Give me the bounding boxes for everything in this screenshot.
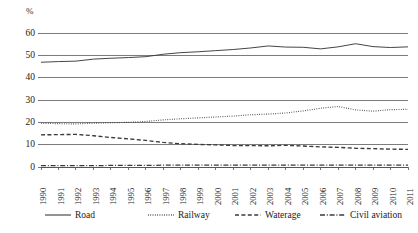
x-axis-tick-label: 1999 <box>195 188 205 205</box>
chart-figure: 0102030405060 19901991199219931994199519… <box>0 0 418 233</box>
y-axis-unit-label: % <box>26 6 34 16</box>
x-axis-tick-label: 1995 <box>126 188 136 205</box>
x-axis-tick-label: 1991 <box>56 188 66 205</box>
series-line-road <box>41 44 408 63</box>
gridlines-group <box>41 33 408 167</box>
x-axis-tick-label: 1990 <box>38 188 48 205</box>
x-axis-tick-label: 2004 <box>283 187 293 205</box>
legend-label-railway: Railway <box>178 210 210 220</box>
x-axis-tick-label: 2011 <box>405 188 415 205</box>
y-axis-tick-label: 60 <box>26 28 36 38</box>
x-axis-tick-label: 2005 <box>300 188 310 205</box>
x-axis-tick-label: 2002 <box>248 188 258 205</box>
x-axis-ticks-group: 1990199119921993199419951996199719981999… <box>38 167 415 205</box>
y-axis-tick-label: 40 <box>26 72 36 82</box>
chart-legend: RoadRailwayWaterageCivil aviation <box>45 210 402 220</box>
series-line-railway <box>41 106 408 123</box>
legend-label-waterage: Waterage <box>265 210 301 220</box>
x-axis-tick-label: 1994 <box>108 187 118 205</box>
y-axis-tick-label: 10 <box>26 139 36 149</box>
x-axis-tick-label: 1993 <box>91 188 101 205</box>
x-axis-tick-label: 1997 <box>161 187 171 205</box>
x-axis-tick-label: 1992 <box>73 188 83 205</box>
y-axis-tick-label: 50 <box>26 50 36 60</box>
legend-label-road: Road <box>75 210 95 220</box>
x-axis-tick-label: 2007 <box>335 187 345 205</box>
x-axis-tick-label: 2001 <box>230 188 240 205</box>
x-axis-tick-label: 2000 <box>213 188 223 205</box>
y-axis-tick-label: 30 <box>26 95 36 105</box>
x-axis-tick-label: 1998 <box>178 188 188 205</box>
y-axis-ticks-group: 0102030405060 <box>26 28 42 172</box>
line-chart: 0102030405060 19901991199219931994199519… <box>0 0 418 233</box>
series-line-waterage <box>41 134 408 149</box>
x-axis-tick-label: 2006 <box>318 187 328 205</box>
x-axis-tick-label: 2010 <box>388 188 398 205</box>
x-axis-tick-label: 2008 <box>353 188 363 205</box>
x-axis-tick-label: 2009 <box>370 188 380 205</box>
x-axis-tick-label: 2003 <box>265 188 275 205</box>
y-axis-tick-label: 20 <box>26 117 36 127</box>
legend-label-civil-aviation: Civil aviation <box>350 210 402 220</box>
x-axis-tick-label: 1996 <box>143 187 153 205</box>
data-series-group <box>41 44 408 166</box>
y-axis-tick-label: 0 <box>30 162 35 172</box>
